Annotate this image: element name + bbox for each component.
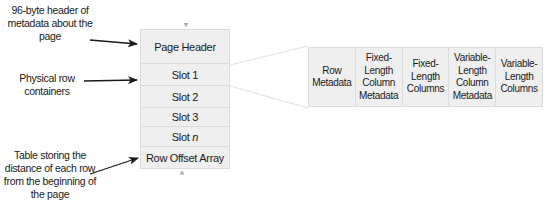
expansion-line-top [230,46,308,65]
row-metadata-cell: Row Metadata [309,48,356,106]
slot-2-label: Slot 2 [172,91,198,103]
data-page: Page Header Slot 1 Slot 2 Slot 3 Slot n … [140,29,230,169]
page-top-marker-icon [184,23,189,27]
slot-1-label: Slot 1 [172,69,198,81]
variable-length-column-metadata-cell: Variable- Length Column Metadata [449,48,496,106]
page-header-cell: Page Header [141,30,229,64]
slot-n-label-italic: n [192,131,198,143]
header-arrow-icon [90,40,137,44]
page-header-label: Page Header [154,41,216,53]
page-bottom-marker-icon [180,171,185,175]
row-structure: Row Metadata Fixed- Length Column Metada… [308,47,543,107]
slot-1-cell: Slot 1 [141,64,229,86]
row-offset-array-label: Row Offset Array [146,152,224,164]
fixed-length-columns-cell: Fixed- Length Columns [403,48,450,106]
row-offset-array-cell: Row Offset Array [141,147,229,168]
diagram-connectors [0,0,560,223]
slot-n-cell: Slot n [141,127,229,147]
fixed-length-column-metadata-cell: Fixed- Length Column Metadata [356,48,403,106]
expansion-line-bottom [230,86,308,108]
slot-n-label-prefix: Slot [172,131,193,143]
slot-3-cell: Slot 3 [141,108,229,127]
offset-arrow-icon [90,158,138,174]
variable-length-columns-cell: Variable- Length Columns [496,48,542,106]
rows-arrow-icon [84,80,137,81]
slot-2-cell: Slot 2 [141,86,229,108]
slot-3-label: Slot 3 [172,111,198,123]
